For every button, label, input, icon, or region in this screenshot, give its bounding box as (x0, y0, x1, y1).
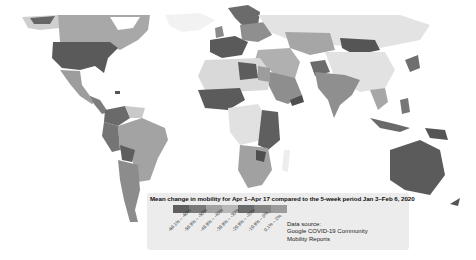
argentina-chile (118, 160, 140, 222)
australia (390, 140, 445, 195)
legend-swatch (271, 205, 287, 213)
indonesia (370, 118, 410, 132)
legend-title: Mean change in mobility for Apr 1–Apr 17… (150, 195, 415, 202)
madagascar (282, 150, 290, 172)
source-name: Google COVID-19 Community (287, 228, 368, 235)
southern-africa (238, 145, 272, 188)
usa (52, 42, 118, 73)
source-name-cont: Mobility Reports (287, 236, 368, 243)
uk (215, 26, 224, 38)
greenland (165, 13, 215, 32)
legend-tick-labels: -69.1% – -60% -59.9% – -50% -49.9% – -40… (167, 215, 297, 245)
peru (102, 122, 120, 152)
libya (238, 62, 258, 80)
japan (405, 55, 420, 72)
legend: Mean change in mobility for Apr 1–Apr 17… (147, 193, 409, 250)
data-source: Data source: Google COVID-19 Community M… (287, 221, 368, 243)
philippines (400, 98, 410, 114)
southeast-asia (370, 88, 388, 110)
colombia (104, 106, 130, 126)
india (315, 72, 360, 118)
papua (425, 128, 448, 140)
new-zealand (450, 198, 460, 206)
source-label: Data source: (287, 221, 368, 228)
egypt (258, 66, 270, 82)
